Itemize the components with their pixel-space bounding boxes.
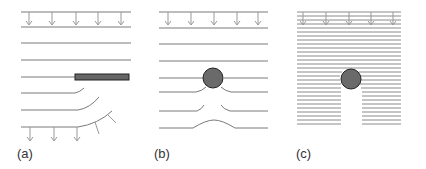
panel-label-b: (b)	[154, 146, 170, 161]
cylinder-obstacle	[203, 68, 223, 88]
cylinder-obstacle-c	[341, 69, 361, 89]
plate-obstacle	[75, 74, 129, 80]
wave-diffraction-diagram	[0, 0, 426, 169]
panel-label-c: (c)	[296, 146, 311, 161]
panel-label-a: (a)	[17, 146, 33, 161]
panel-b	[159, 12, 268, 128]
panel-c	[297, 12, 401, 124]
panel-a	[21, 12, 131, 141]
